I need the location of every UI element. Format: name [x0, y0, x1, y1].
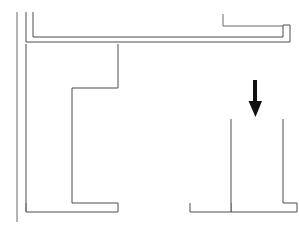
- load-arrow-head-icon: [249, 101, 263, 117]
- right-column: [231, 119, 297, 212]
- diagram-canvas: [0, 0, 299, 230]
- structural-section-diagram: [0, 0, 299, 230]
- left-vertical-wall: [26, 44, 118, 212]
- top-right-return-line: [223, 14, 283, 26]
- right-column-footing: [190, 203, 231, 212]
- upper-wall-profile: [26, 12, 290, 42]
